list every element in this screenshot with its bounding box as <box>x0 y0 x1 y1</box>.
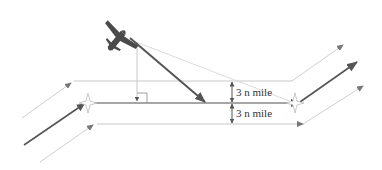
intercept-arrow <box>130 38 205 102</box>
waypoint-start-icon <box>79 93 97 113</box>
route-centerline <box>24 62 357 145</box>
waypoint-end-icon <box>286 93 304 113</box>
route-diagram: 3 n mile 3 n mile <box>0 0 382 170</box>
upper-width-label: 3 n mile <box>236 86 272 98</box>
lower-width-label: 3 n mile <box>236 107 272 119</box>
